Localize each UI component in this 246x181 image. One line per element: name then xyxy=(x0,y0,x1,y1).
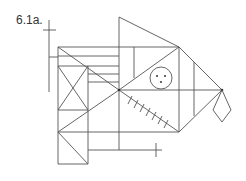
lower-cross-marker xyxy=(119,143,162,157)
diamond-shape xyxy=(213,90,231,122)
dotted-circle-icon xyxy=(150,67,172,89)
left-cross-marker xyxy=(43,20,58,92)
right-body xyxy=(118,47,224,132)
geometric-diagram xyxy=(0,0,246,181)
left-grid-box xyxy=(58,47,179,164)
